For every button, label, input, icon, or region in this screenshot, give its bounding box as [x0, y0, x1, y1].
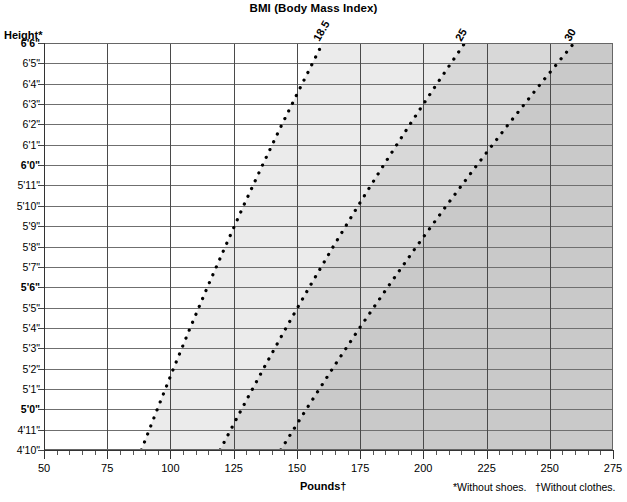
y-axis-tick-label: 5'4" — [0, 322, 40, 334]
x-axis-tick-major — [550, 450, 551, 459]
bmi-curve-30 — [281, 43, 574, 450]
bmi-curve-25 — [220, 43, 465, 450]
y-axis-tick-label: 5'11" — [0, 179, 40, 191]
x-axis-tick-label: 225 — [477, 462, 495, 474]
x-axis-tick-major — [107, 450, 108, 459]
y-axis-tick-label: 5'1" — [0, 383, 40, 395]
bmi-curves-layer — [44, 43, 613, 450]
y-axis-tick-label: 6'1" — [0, 139, 40, 151]
x-axis-tick-major — [613, 450, 614, 459]
y-axis-tick-label: 6'0" — [0, 159, 40, 171]
bmi-curve-label-25: 25 — [452, 26, 469, 43]
y-axis-tick-label: 4'10" — [0, 444, 40, 456]
x-axis-tick-label: 125 — [225, 462, 243, 474]
bmi-curve-label-18.5: 18.5 — [310, 18, 331, 43]
y-axis-tick-label: 6'5" — [0, 57, 40, 69]
y-axis-tick-label: 6'4" — [0, 78, 40, 90]
plot-area — [44, 43, 613, 450]
chart-title: BMI (Body Mass Index) — [0, 2, 627, 14]
y-axis-line — [44, 43, 45, 451]
y-axis-tick-label: 6'3" — [0, 98, 40, 110]
x-axis-tick-major — [297, 450, 298, 459]
y-axis-tick-label: 5'3" — [0, 342, 40, 354]
y-axis-tick-label: 6'6" — [0, 37, 40, 49]
y-axis-tick-label: 5'8" — [0, 241, 40, 253]
x-axis-tick-major — [234, 450, 235, 459]
y-axis-tick-label: 5'9" — [0, 220, 40, 232]
x-axis-tick-label: 200 — [414, 462, 432, 474]
footnote-without-clothes: †Without clothes. — [535, 481, 616, 493]
y-axis-tick-label: 4'11" — [0, 424, 40, 436]
y-axis-tick-label: 5'2" — [0, 363, 40, 375]
x-axis-tick-major — [44, 450, 45, 459]
x-axis-tick-label: 50 — [38, 462, 50, 474]
x-axis-tick-major — [423, 450, 424, 459]
x-axis-tick-label: 75 — [101, 462, 113, 474]
x-axis-tick-label: 275 — [604, 462, 622, 474]
footnote-without-shoes: *Without shoes. — [453, 481, 527, 493]
y-axis-tick-label: 5'0" — [0, 403, 40, 415]
x-axis-tick-label: 250 — [541, 462, 559, 474]
x-axis-tick-label: 100 — [161, 462, 179, 474]
x-axis-line — [44, 450, 614, 451]
x-axis-tick-major — [170, 450, 171, 459]
y-axis-tick-label: 5'7" — [0, 261, 40, 273]
bmi-curve-18.5 — [141, 43, 322, 450]
y-axis-tick-label: 5'10" — [0, 200, 40, 212]
x-axis-title: Pounds† — [300, 480, 346, 492]
bmi-curve-label-30: 30 — [562, 26, 579, 43]
y-axis-tick-label: 6'2" — [0, 118, 40, 130]
y-axis-tick-label: 5'6" — [0, 281, 40, 293]
x-axis-tick-label: 150 — [288, 462, 306, 474]
x-axis-tick-label: 175 — [351, 462, 369, 474]
x-axis-tick-major — [360, 450, 361, 459]
bmi-chart: BMI (Body Mass Index) Height* 6'6"6'5"6'… — [0, 0, 627, 502]
x-axis-tick-major — [487, 450, 488, 459]
y-axis-tick-label: 5'5" — [0, 302, 40, 314]
